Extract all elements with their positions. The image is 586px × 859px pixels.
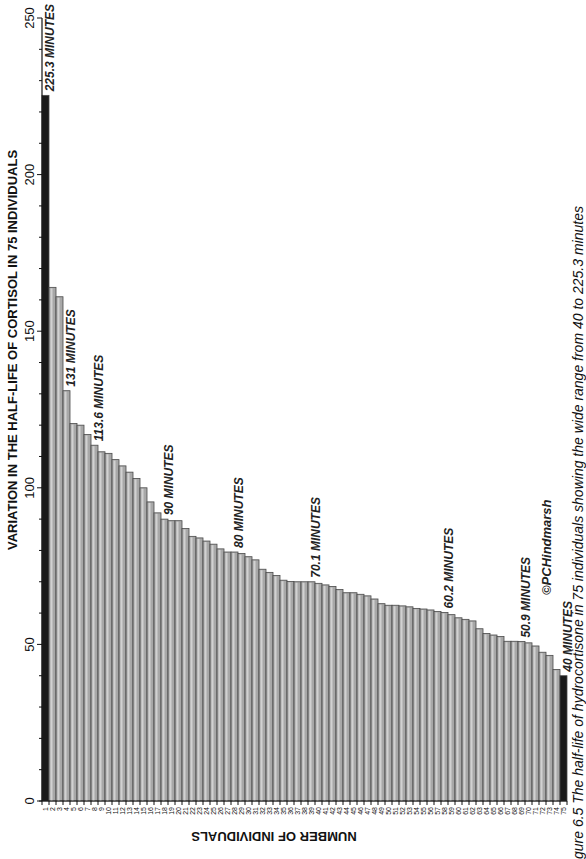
x-tick-label: 73 — [546, 807, 553, 815]
x-tick-label: 13 — [126, 807, 133, 815]
bar-highlight-stripe — [128, 473, 130, 801]
bar-highlight-stripe — [72, 425, 74, 801]
bar-highlight-stripe — [177, 522, 179, 801]
bar-highlight-stripe — [184, 530, 186, 801]
bar-highlight-stripe — [317, 584, 319, 801]
bar-highlight-stripe — [324, 586, 326, 801]
x-tick-label: 3 — [56, 807, 63, 811]
x-tick-label: 56 — [427, 807, 434, 815]
x-tick-label: 44 — [343, 807, 350, 815]
x-tick-label: 7 — [84, 807, 91, 811]
bar-highlight-stripe — [492, 636, 494, 801]
bar-highlight-stripe — [401, 607, 403, 801]
annotation-label: 80 MINUTES — [232, 477, 246, 548]
bar-highlight-stripe — [464, 620, 466, 801]
category-axis: 1234567891011121314151617181920212223242… — [39, 801, 567, 815]
x-tick-label: 58 — [441, 807, 448, 815]
y-tick-label: 200 — [22, 164, 37, 186]
bar-highlight-stripe — [408, 608, 410, 801]
x-tick-label: 17 — [154, 807, 161, 815]
bar-75 — [560, 676, 567, 801]
x-tick-label: 59 — [448, 807, 455, 815]
bar-highlight-stripe — [261, 570, 263, 801]
x-tick-label: 57 — [434, 807, 441, 815]
bar-highlight-stripe — [506, 642, 508, 801]
bar-highlight-stripe — [198, 539, 200, 801]
bar-highlight-stripe — [79, 426, 81, 801]
value-axis: 050100150200250 — [22, 7, 42, 804]
x-tick-label: 35 — [280, 807, 287, 815]
copyright-text: ©PCHindmarsh — [539, 499, 554, 595]
bar-highlight-stripe — [513, 642, 515, 801]
chart-title: VARIATION IN THE HALF-LIFE OF CORTISOL I… — [5, 150, 20, 550]
x-tick-label: 26 — [217, 807, 224, 815]
x-tick-label: 71 — [532, 807, 539, 815]
x-tick-label: 72 — [539, 807, 546, 815]
bar-highlight-stripe — [93, 446, 95, 801]
x-tick-label: 41 — [322, 807, 329, 815]
bar-highlight-stripe — [58, 298, 60, 801]
x-tick-label: 60 — [455, 807, 462, 815]
x-tick-label: 30 — [245, 807, 252, 815]
x-tick-label: 69 — [518, 807, 525, 815]
bar-highlight-stripe — [478, 630, 480, 801]
x-tick-label: 75 — [560, 807, 567, 815]
x-tick-label: 16 — [147, 807, 154, 815]
y-tick-label: 0 — [22, 797, 37, 804]
bar-highlight-stripe — [226, 553, 228, 801]
x-axis-title: NUMBER OF INDIVIDUALS — [191, 829, 357, 844]
bar-highlight-stripe — [233, 553, 235, 801]
x-tick-label: 2 — [49, 807, 56, 811]
bar-highlight-stripe — [443, 613, 445, 801]
bar-highlight-stripe — [457, 619, 459, 801]
x-tick-label: 14 — [133, 807, 140, 815]
bar-highlight-stripe — [205, 542, 207, 801]
x-tick-label: 34 — [273, 807, 280, 815]
x-tick-label: 6 — [77, 807, 84, 811]
x-tick-label: 49 — [378, 807, 385, 815]
annotation-label: 60.2 MINUTES — [442, 528, 456, 609]
x-tick-label: 63 — [476, 807, 483, 815]
bar-highlight-stripe — [394, 606, 396, 801]
x-tick-label: 12 — [119, 807, 126, 815]
x-tick-label: 24 — [203, 807, 210, 815]
x-tick-label: 5 — [70, 807, 77, 811]
x-tick-label: 27 — [224, 807, 231, 815]
bar-highlight-stripe — [114, 461, 116, 801]
bar-highlight-stripe — [485, 634, 487, 801]
x-tick-label: 54 — [413, 807, 420, 815]
bar-highlight-stripe — [275, 576, 277, 801]
bar-highlight-stripe — [471, 622, 473, 801]
x-tick-label: 10 — [105, 807, 112, 815]
x-tick-label: 39 — [308, 807, 315, 815]
x-tick-label: 22 — [189, 807, 196, 815]
bar-highlight-stripe — [534, 647, 536, 801]
y-tick-label: 150 — [22, 320, 37, 342]
y-tick-label: 50 — [22, 637, 37, 651]
bar-highlight-stripe — [100, 453, 102, 801]
bar-highlight-stripe — [268, 573, 270, 801]
bar-highlight-stripe — [422, 610, 424, 801]
x-tick-label: 42 — [329, 807, 336, 815]
bar-highlight-stripe — [65, 392, 67, 801]
bar-highlight-stripe — [555, 670, 557, 801]
bar-highlight-stripe — [499, 638, 501, 801]
y-tick-label: 100 — [22, 477, 37, 499]
x-tick-label: 62 — [469, 807, 476, 815]
bar-chart: 050100150200250 123456789101112131415161… — [0, 0, 586, 859]
x-tick-label: 29 — [238, 807, 245, 815]
y-tick-label: 250 — [22, 7, 37, 29]
bar-highlight-stripe — [121, 467, 123, 801]
x-tick-label: 45 — [350, 807, 357, 815]
bar-highlight-stripe — [170, 522, 172, 801]
bar-highlight-stripe — [520, 643, 522, 801]
x-tick-label: 66 — [497, 807, 504, 815]
bar-highlight-stripe — [541, 653, 543, 801]
bar-highlight-stripe — [296, 583, 298, 801]
bar-highlight-stripe — [51, 288, 53, 801]
x-tick-label: 8 — [91, 807, 98, 811]
x-tick-label: 51 — [392, 807, 399, 815]
bar-highlight-stripe — [366, 597, 368, 801]
bar-1 — [42, 95, 49, 801]
x-tick-label: 38 — [301, 807, 308, 815]
